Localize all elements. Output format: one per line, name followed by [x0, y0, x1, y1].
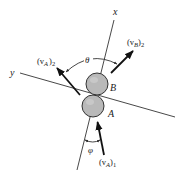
vA1-arrow [98, 122, 105, 155]
sphere-b [86, 73, 108, 95]
vB2-arrow [111, 51, 133, 73]
phi-label: φ [88, 145, 93, 155]
sphere-a [82, 95, 104, 117]
phi-arc [85, 140, 100, 142]
vA2-arrow [57, 68, 80, 95]
vB2-label: (vB)2 [127, 37, 144, 48]
vA1-label: (vA)1 [99, 157, 116, 168]
sphere-a-label: A [107, 108, 115, 119]
theta-label: θ [85, 55, 90, 65]
y-axis-label: y [9, 67, 15, 78]
x-axis-label: x [112, 6, 118, 17]
vA2-label: (vA)2 [37, 56, 55, 67]
impact-diagram: x y θ B A (vA)2 (vB)2 (vA)1 φ [0, 0, 187, 178]
sphere-b-label: B [110, 82, 116, 93]
